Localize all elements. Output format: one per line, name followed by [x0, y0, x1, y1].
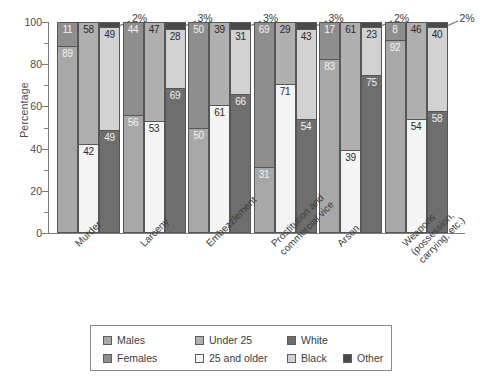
bar-segment: 39: [210, 23, 229, 105]
bar-segment: 28: [166, 29, 185, 88]
bar-segment: 43: [297, 29, 316, 119]
bar-segment: 53: [145, 121, 164, 232]
bar-segment: 92: [386, 40, 405, 232]
bar-age: 6139: [340, 22, 361, 233]
bar-value-label: 56: [124, 117, 143, 128]
bar-segment: 58: [79, 23, 98, 144]
y-tick-major: [42, 233, 48, 234]
other-callout-label: 2%: [460, 12, 475, 24]
bar-value-label: 43: [297, 31, 316, 42]
y-tick-label: 80: [0, 58, 42, 70]
bar-value-label: 54: [297, 121, 316, 132]
y-tick-label: 100: [0, 16, 42, 28]
legend-label: Black: [301, 352, 327, 364]
y-tick-label: 40: [0, 143, 42, 155]
legend-swatch: [195, 354, 204, 363]
bar-sex: 892: [385, 22, 406, 233]
y-axis-line: [48, 22, 49, 234]
bar-segment: 69: [166, 88, 185, 232]
y-tick-minor: [44, 170, 48, 171]
bar-value-label: 66: [231, 96, 250, 107]
bar-segment: 47: [145, 23, 164, 121]
bar-value-label: 69: [255, 24, 274, 35]
bar-segment: 44: [124, 23, 143, 115]
bar-value-label: 61: [210, 107, 229, 118]
bar-age: 4753: [144, 22, 165, 233]
legend-label: Males: [117, 334, 145, 346]
bar-segment: 40: [428, 27, 447, 111]
bar-sex: 5050: [188, 22, 209, 233]
legend-swatch: [103, 354, 112, 363]
bar-value-label: 46: [407, 24, 426, 35]
y-tick-major: [42, 22, 48, 23]
bar-segment: 49: [100, 130, 119, 232]
bar-value-label: 11: [58, 24, 77, 35]
bar-race: 2869: [165, 22, 186, 233]
bar-sex: 1189: [57, 22, 78, 233]
bar-segment: 39: [341, 150, 360, 232]
bar-value-label: 8: [386, 24, 405, 35]
bar-segment: 46: [407, 23, 426, 119]
bar-segment: 54: [407, 119, 426, 232]
bar-value-label: 49: [100, 29, 119, 40]
legend-label: Females: [117, 352, 157, 364]
bar-value-label: 58: [79, 24, 98, 35]
y-tick-major: [42, 106, 48, 107]
bar-segment: 75: [362, 75, 381, 232]
legend-item: Black: [287, 352, 327, 364]
bar-segment: 31: [255, 167, 274, 232]
bar-value-label: 39: [341, 152, 360, 163]
bar-value-label: 28: [166, 31, 185, 42]
legend-item: Other: [343, 352, 383, 364]
y-tick-label: 20: [0, 185, 42, 197]
legend-swatch: [103, 336, 112, 345]
bar-segment: 8: [386, 23, 405, 40]
legend-item: Under 25: [195, 334, 252, 346]
bar-segment: 89: [58, 46, 77, 232]
bar-value-label: 50: [189, 24, 208, 35]
bar-value-label: 17: [320, 24, 339, 35]
bar-segment: 29: [276, 23, 295, 84]
bar-value-label: 40: [428, 29, 447, 40]
bar-segment: 23: [362, 27, 381, 75]
y-tick-major: [42, 191, 48, 192]
bar-value-label: 31: [231, 31, 250, 42]
stacked-bar-chart: Percentage 020406080100 1189584249492%44…: [0, 0, 482, 387]
legend-swatch: [287, 354, 296, 363]
bar-segment: 31: [231, 29, 250, 94]
y-tick-major: [42, 64, 48, 65]
legend: MalesUnder 25WhiteFemales25 and olderBla…: [90, 325, 392, 371]
bar-value-label: 50: [189, 130, 208, 141]
legend-label: 25 and older: [209, 352, 267, 364]
bar-value-label: 54: [407, 121, 426, 132]
bar-value-label: 71: [276, 86, 295, 97]
bar-value-label: 92: [386, 42, 405, 53]
bar-segment: 17: [320, 23, 339, 59]
bar-age: 3961: [209, 22, 230, 233]
bar-segment: 69: [255, 23, 274, 167]
bar-value-label: 89: [58, 48, 77, 59]
bar-segment: 50: [189, 128, 208, 233]
bar-race: 4949: [99, 22, 120, 233]
bar-value-label: 83: [320, 61, 339, 72]
bar-segment: 56: [124, 115, 143, 232]
legend-label: Other: [357, 352, 383, 364]
bar-segment: 50: [189, 23, 208, 128]
y-tick-label: 60: [0, 100, 42, 112]
bar-value-label: 23: [362, 29, 381, 40]
bar-value-label: 39: [210, 24, 229, 35]
bar-segment: 49: [100, 27, 119, 129]
bar-segment: 11: [58, 23, 77, 46]
y-tick-minor: [44, 43, 48, 44]
y-tick-major: [42, 149, 48, 150]
bar-value-label: 61: [341, 24, 360, 35]
legend-label: Under 25: [209, 334, 252, 346]
bar-age: 2971: [275, 22, 296, 233]
legend-item: 25 and older: [195, 352, 267, 364]
bar-age: 5842: [78, 22, 99, 233]
bar-value-label: 75: [362, 77, 381, 88]
bar-value-label: 49: [100, 132, 119, 143]
y-tick-label: 0: [0, 227, 42, 239]
bar-age: 4654: [406, 22, 427, 233]
x-axis-line: [48, 233, 465, 234]
